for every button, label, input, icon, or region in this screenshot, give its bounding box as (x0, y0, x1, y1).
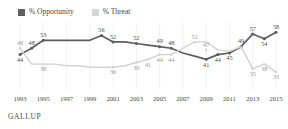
legend-item-threat: % Threat (92, 8, 131, 16)
data-label: 48 (29, 39, 35, 46)
data-label: 47 (203, 41, 209, 48)
x-axis-tick: 1997 (60, 95, 73, 103)
data-label: 41 (145, 61, 151, 68)
data-label: 49 (238, 37, 244, 44)
x-axis-tick: 2013 (246, 95, 259, 103)
chart-container: % Opportunity % Threat 44485356525249484… (0, 0, 288, 129)
data-label: 44 (17, 56, 23, 63)
data-label: 44 (168, 56, 174, 63)
data-point (251, 32, 254, 35)
data-label: 38 (40, 65, 46, 72)
data-label: 53 (40, 31, 46, 38)
data-label: 35 (250, 70, 256, 77)
x-axis-tick: 2009 (200, 95, 213, 103)
data-label: 44 (215, 56, 221, 63)
data-label: 48 (17, 39, 23, 46)
data-label: 45 (226, 54, 232, 61)
data-label: 36 (110, 68, 116, 75)
x-axis-tick: 2001 (106, 95, 119, 103)
data-point (19, 47, 21, 49)
data-label: 52 (191, 33, 197, 40)
x-axis-tick: 2007 (176, 95, 189, 103)
x-axis-tick: 2015 (269, 95, 282, 103)
gridlines (20, 22, 276, 90)
data-point (275, 31, 278, 34)
data-label: 49 (157, 37, 163, 44)
data-labels: 4448535652524948414445495754584838363941… (17, 23, 279, 80)
data-point (100, 34, 103, 37)
data-point (112, 40, 115, 43)
series-line-opportunity (20, 32, 276, 59)
x-axis-tick: 2003 (130, 95, 143, 103)
data-label: 52 (110, 33, 116, 40)
data-label: 54 (261, 40, 267, 47)
data-label: 52 (133, 34, 139, 41)
legend-swatch-opportunity (18, 9, 25, 16)
data-label: 56 (98, 26, 104, 33)
legend-label-opportunity: % Opportunity (29, 8, 74, 16)
x-axis: 1993199519971999200120032005200720092011… (0, 95, 288, 107)
x-axis-tick: 1995 (37, 95, 50, 103)
chart-legend: % Opportunity % Threat (0, 5, 288, 19)
data-point (30, 47, 33, 50)
plot-area: 4448535652524948414445495754584838363941… (0, 20, 288, 92)
data-point (170, 47, 173, 50)
data-label: 44 (157, 56, 163, 63)
data-label: 41 (203, 61, 209, 68)
source-label: GALLUP (8, 112, 41, 121)
data-label: 33 (273, 73, 279, 80)
x-axis-tick: 2005 (153, 95, 166, 103)
data-label: 48 (168, 39, 174, 46)
x-axis-tick: 2011 (223, 95, 236, 103)
legend-swatch-threat (92, 9, 99, 16)
data-point (158, 45, 161, 48)
data-label: 58 (273, 23, 279, 30)
x-axis-tick: 1999 (83, 95, 96, 103)
legend-item-opportunity: % Opportunity (18, 8, 74, 16)
legend-label-threat: % Threat (103, 8, 131, 16)
data-label: 38 (261, 65, 267, 72)
data-point (205, 49, 207, 51)
data-point (42, 39, 45, 42)
x-axis-tick: 1993 (13, 95, 26, 103)
data-point (135, 42, 138, 45)
data-point (193, 41, 195, 43)
data-label: 57 (250, 25, 256, 32)
line-chart-svg: 4448535652524948414445495754584838363941… (0, 20, 288, 92)
data-label: 39 (133, 64, 139, 71)
